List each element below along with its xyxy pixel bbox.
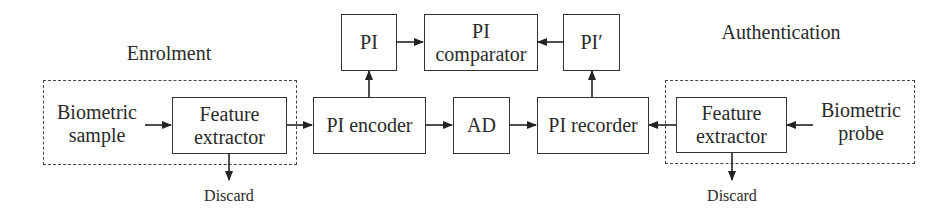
- discard-enrolment-label: Discard: [189, 184, 269, 207]
- feature-extractor-enrolment-line1: Feature: [194, 103, 265, 126]
- biometric-sample-line1: Biometric: [51, 101, 143, 124]
- feature-extractor-enrolment-line2: extractor: [194, 126, 265, 149]
- pi-prime-box: PI′: [563, 14, 620, 71]
- pi-comparator-box: PI comparator: [424, 14, 538, 71]
- feature-extractor-enrolment-box: Feature extractor: [172, 97, 287, 154]
- pi-comparator-line1: PI: [435, 20, 526, 43]
- ad-box: AD: [453, 97, 510, 154]
- pi-comparator-line2: comparator: [435, 43, 526, 66]
- pi-recorder-box: PI recorder: [537, 97, 649, 154]
- biometric-probe-line1: Biometric: [815, 99, 907, 122]
- feature-extractor-authentication-line1: Feature: [696, 102, 767, 125]
- pi-box: PI: [341, 14, 397, 71]
- feature-extractor-authentication-box: Feature extractor: [676, 97, 787, 153]
- biometric-sample-label: Biometric sample: [51, 101, 143, 147]
- discard-authentication-label: Discard: [692, 184, 772, 207]
- biometric-sample-line2: sample: [51, 124, 143, 147]
- feature-extractor-authentication-line2: extractor: [696, 125, 767, 148]
- biometric-probe-label: Biometric probe: [815, 99, 907, 145]
- biometric-probe-line2: probe: [815, 122, 907, 145]
- pi-encoder-box: PI encoder: [313, 97, 426, 154]
